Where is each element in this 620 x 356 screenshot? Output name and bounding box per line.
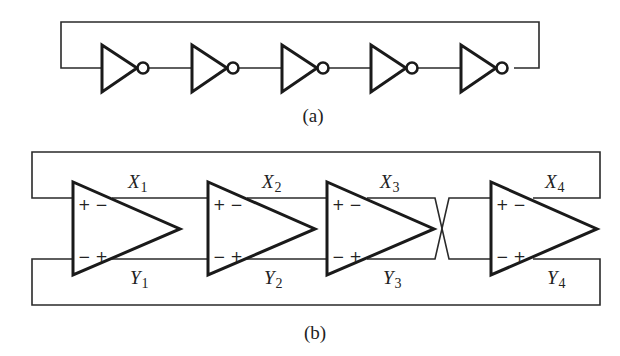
inverter-icon xyxy=(192,45,239,92)
polarity-top-1: + − xyxy=(78,196,108,214)
polarity-top-2: + − xyxy=(213,196,243,214)
node-label-y1: Y1 xyxy=(130,267,149,291)
inverter-icon xyxy=(371,45,418,92)
polarity-bottom-4: − + xyxy=(496,248,526,266)
polarity-bottom-3: − + xyxy=(332,248,362,266)
polarity-top-3: + − xyxy=(332,196,362,214)
node-label-x2: X2 xyxy=(261,171,282,195)
caption-b: (b) xyxy=(304,322,326,344)
node-label-x4: X4 xyxy=(544,171,565,195)
node-label-y3: Y3 xyxy=(383,267,402,291)
polarity-top-4: + − xyxy=(496,196,526,214)
inverter-icon xyxy=(461,45,508,92)
node-label-x1: X1 xyxy=(127,171,148,195)
node-label-x3: X3 xyxy=(379,171,400,195)
figure-b: + − − + + − − + + − − + + − − + X1 X2 X3… xyxy=(32,152,600,344)
figure-a: (a) xyxy=(61,22,539,127)
caption-a: (a) xyxy=(302,105,323,127)
inverter-icon xyxy=(282,45,329,92)
inverter-icon xyxy=(102,45,149,92)
node-label-y4: Y4 xyxy=(547,267,566,291)
polarity-bottom-2: − + xyxy=(213,248,243,266)
polarity-bottom-1: − + xyxy=(78,248,108,266)
node-label-y2: Y2 xyxy=(264,267,283,291)
ring-oscillator-figure: (a) + − − + + − − + + − − + + − − + X1 X… xyxy=(0,0,620,356)
